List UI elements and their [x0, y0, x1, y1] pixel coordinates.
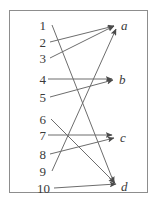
- edge-2-a: [50, 26, 114, 42]
- domain-labels: 1 2 3 4 5 6 7 8 9 10: [37, 18, 50, 194]
- domain-node-7: 7: [40, 128, 47, 143]
- figure-frame: 1 2 3 4 5 6 7 8 9 10 a b c d: [9, 10, 148, 193]
- domain-node-4: 4: [40, 72, 47, 87]
- domain-node-6: 6: [40, 112, 47, 127]
- domain-node-5: 5: [40, 90, 47, 105]
- edge-5-b: [50, 80, 113, 97]
- codomain-node-c: c: [120, 130, 126, 145]
- domain-node-8: 8: [40, 147, 47, 162]
- mapping-diagram: 1 2 3 4 5 6 7 8 9 10 a b c d: [10, 11, 149, 194]
- domain-node-9: 9: [40, 164, 47, 179]
- codomain-node-a: a: [121, 18, 128, 33]
- codomain-labels: a b c d: [119, 18, 128, 194]
- edges-group: [48, 25, 116, 188]
- codomain-node-d: d: [121, 179, 128, 194]
- domain-node-1: 1: [40, 18, 47, 33]
- edge-8-c: [50, 138, 114, 154]
- domain-node-10: 10: [37, 181, 50, 194]
- domain-node-2: 2: [40, 35, 47, 50]
- edge-10-d: [54, 184, 116, 188]
- edge-3-a: [50, 26, 114, 58]
- edge-1-d: [52, 25, 114, 183]
- domain-node-3: 3: [40, 51, 47, 66]
- codomain-node-b: b: [119, 72, 126, 87]
